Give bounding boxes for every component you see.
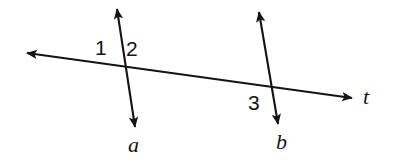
angle-label-3: 3: [248, 92, 260, 113]
angle-label-1: 1: [95, 37, 107, 58]
line-t: [27, 53, 352, 98]
line-label-t: t: [363, 86, 369, 108]
line-b: [259, 12, 278, 124]
line-label-b: b: [276, 131, 287, 153]
angle-label-2: 2: [126, 38, 138, 59]
line-label-a: a: [128, 134, 139, 156]
geometry-figure: 1 2 3 a b t: [0, 0, 397, 165]
geometry-canvas: [0, 0, 397, 165]
